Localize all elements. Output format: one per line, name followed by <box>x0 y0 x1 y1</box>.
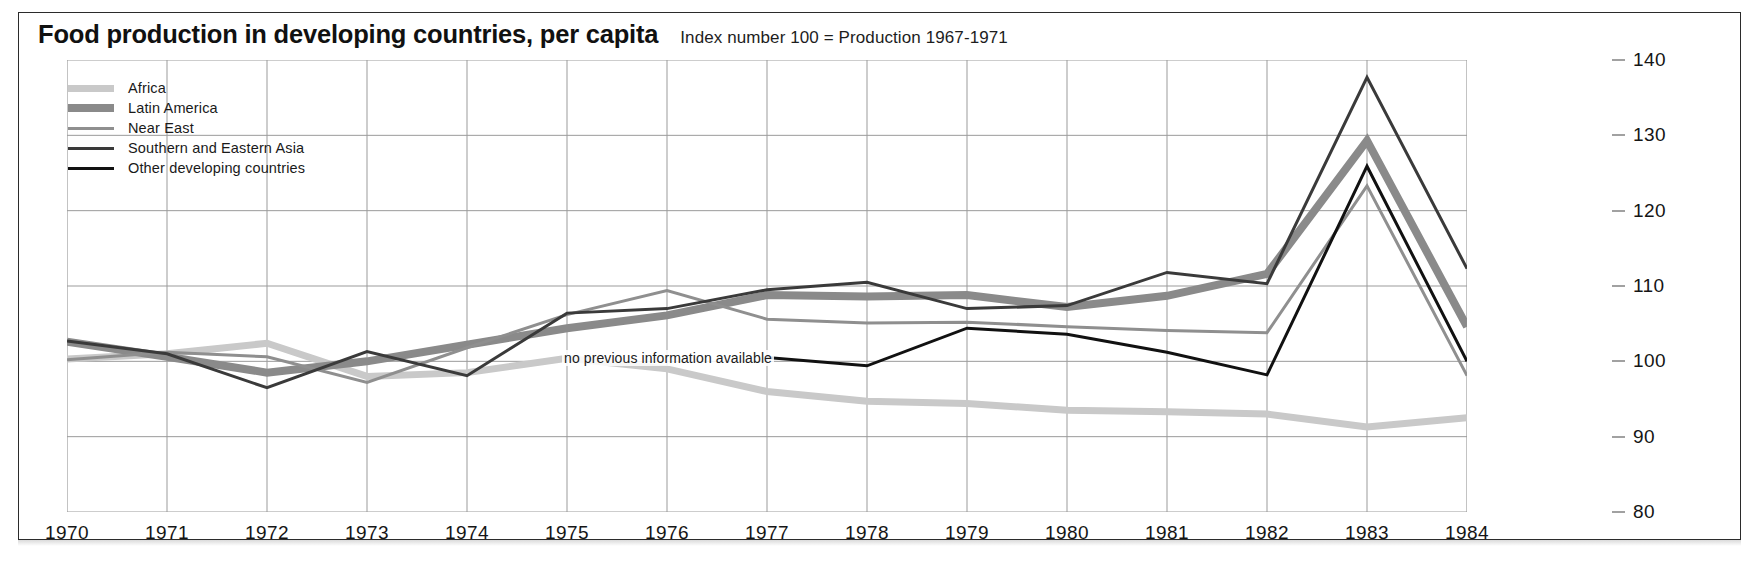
legend-item-label: Southern and Eastern Asia <box>128 138 304 158</box>
y-axis-tick-mark <box>1612 361 1625 362</box>
y-axis-tick-label: 130 <box>1633 124 1666 146</box>
y-axis-tick-mark <box>1612 286 1625 287</box>
legend-item[interactable]: Other developing countries <box>68 158 488 178</box>
x-axis-tick-label: 1972 <box>245 522 289 544</box>
x-axis-tick-label: 1981 <box>1145 522 1189 544</box>
legend-swatch-icon <box>68 143 114 154</box>
y-axis-tick-label: 110 <box>1633 275 1665 297</box>
y-axis-tick-label: 80 <box>1633 501 1655 523</box>
chart-header: Food production in developing countries,… <box>38 20 1698 54</box>
y-axis-tick-mark <box>1612 210 1625 211</box>
x-axis-tick-label: 1984 <box>1445 522 1489 544</box>
y-axis-tick-label: 140 <box>1633 49 1666 71</box>
legend-item-label: Latin America <box>128 98 218 118</box>
legend-item-label: Near East <box>128 118 194 138</box>
legend-item[interactable]: Africa <box>68 78 488 98</box>
legend-swatch-icon <box>68 163 114 174</box>
legend-item[interactable]: Near East <box>68 118 488 138</box>
y-axis-tick-label: 100 <box>1633 350 1666 372</box>
x-axis-tick-label: 1983 <box>1345 522 1389 544</box>
legend-swatch-icon <box>68 123 114 134</box>
x-axis-tick-label: 1982 <box>1245 522 1289 544</box>
y-axis-tick-mark <box>1612 436 1625 437</box>
x-axis-tick-label: 1971 <box>145 522 189 544</box>
legend-swatch-icon <box>68 103 114 114</box>
chart-legend: AfricaLatin AmericaNear EastSouthern and… <box>68 78 488 178</box>
y-axis-tick-label: 120 <box>1633 200 1666 222</box>
chart-page: Food production in developing countries,… <box>0 0 1761 565</box>
legend-item-label: Other developing countries <box>128 158 305 178</box>
chart-subtitle: Index number 100 = Production 1967-1971 <box>680 28 1008 48</box>
legend-item[interactable]: Southern and Eastern Asia <box>68 138 488 158</box>
x-axis-tick-label: 1978 <box>845 522 889 544</box>
x-axis-tick-label: 1975 <box>545 522 589 544</box>
x-axis-tick-label: 1976 <box>645 522 689 544</box>
x-axis-tick-label: 1977 <box>745 522 789 544</box>
legend-swatch-icon <box>68 83 114 94</box>
x-axis-tick-label: 1979 <box>945 522 989 544</box>
y-axis-tick-mark <box>1612 60 1625 61</box>
y-axis-tick-label: 90 <box>1633 426 1655 448</box>
x-axis-tick-label: 1974 <box>445 522 489 544</box>
legend-item[interactable]: Latin America <box>68 98 488 118</box>
x-axis-tick-label: 1970 <box>45 522 89 544</box>
no-data-annotation: no previous information available <box>562 350 774 366</box>
x-axis-tick-label: 1980 <box>1045 522 1089 544</box>
legend-item-label: Africa <box>128 78 166 98</box>
page-title: Food production in developing countries,… <box>38 20 658 49</box>
y-axis-tick-mark <box>1612 135 1625 136</box>
x-axis-tick-label: 1973 <box>345 522 389 544</box>
series-line <box>767 166 1467 375</box>
y-axis-tick-mark <box>1612 512 1625 513</box>
